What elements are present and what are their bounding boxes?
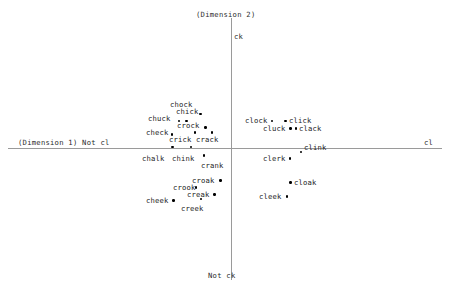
data-point-label: creek [181,205,204,212]
data-point [300,151,302,153]
data-point-label: creak [187,191,210,198]
data-point-label: cheek [146,197,169,204]
data-point-label: chuck [148,115,171,122]
data-point-label: check [146,129,169,136]
data-point [289,127,291,129]
scatter-plot-canvas: (Dimension 1) Not cl cl (Dimension 2) ck… [0,0,450,298]
data-point-label: clerk [263,155,286,162]
y-axis-tick-top: ck [234,33,243,40]
data-point [172,199,174,201]
data-point [211,131,213,133]
data-point-label: cleek [259,193,282,200]
data-point [219,179,221,181]
data-point-label: chink [172,155,195,162]
y-axis-label-top: (Dimension 2) [196,11,256,18]
x-axis-label-right: cl [424,139,433,146]
data-point-label: chick [176,108,199,115]
x-axis-line [8,148,442,149]
data-point-label: clack [299,125,322,132]
data-point [203,154,205,156]
y-axis-line [231,18,232,280]
data-point-label: cluck [263,125,286,132]
data-point-label: crock [177,122,200,129]
data-point [200,198,202,200]
data-point-label: crank [201,162,224,169]
data-point [286,195,288,197]
data-point [295,127,297,129]
data-point [289,181,291,183]
data-point [171,146,173,148]
data-point-label: crick [169,136,192,143]
data-point-label: cloak [294,179,317,186]
data-point [271,120,273,122]
data-point-label: clink [304,144,327,151]
y-axis-label-bottom: Not ck [208,272,235,279]
x-axis-label-left: (Dimension 1) Not cl [18,139,110,146]
data-point [284,120,286,122]
data-point [213,193,215,195]
data-point [199,113,201,115]
data-point [194,131,196,133]
data-point-label: chalk [142,155,165,162]
data-point [204,126,206,128]
data-point-label: crack [196,136,219,143]
data-point [289,157,291,159]
